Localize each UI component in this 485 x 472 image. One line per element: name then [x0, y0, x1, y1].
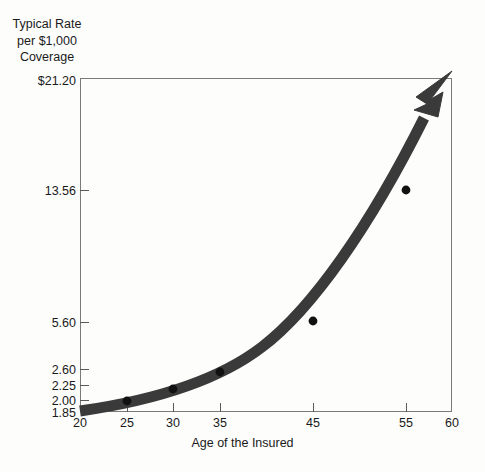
- data-point-marker: [402, 186, 411, 195]
- rate-curve: [80, 71, 452, 411]
- x-axis-ticks: [128, 403, 407, 412]
- plot-area: [0, 0, 485, 472]
- y-axis-ticks: [80, 191, 89, 412]
- plot-frame: [81, 79, 452, 412]
- data-point-marker: [169, 385, 178, 394]
- data-point-marker: [123, 397, 132, 406]
- x-axis-title: Age of the Insured: [0, 436, 485, 450]
- data-point-marker: [216, 368, 225, 377]
- data-point-marker: [309, 317, 318, 326]
- arrowhead-icon: [414, 71, 452, 117]
- rate-by-age-chart: Typical Rate per $1,000 Coverage $21.20 …: [0, 0, 485, 472]
